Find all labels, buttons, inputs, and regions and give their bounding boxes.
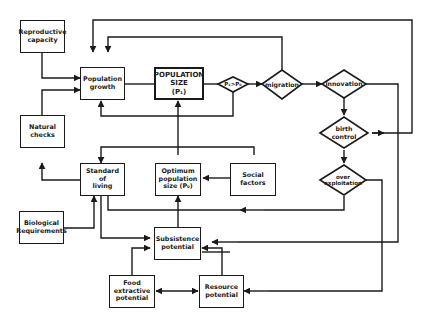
box-subsistence-potential: Subsistence potential: [154, 227, 201, 260]
box-food-extractive-potential: Food extractive potential: [109, 275, 155, 308]
box-natural-checks: Natural checks: [20, 115, 65, 148]
population-flow-diagram: Reproductive capacity Population growth …: [0, 0, 428, 325]
box-standard-of-living: Standard of living: [80, 163, 125, 196]
box-reproductive-capacity: Reproductive capacity: [20, 20, 65, 53]
box-optimum-population-size: Optimum population size (P₀): [155, 163, 201, 196]
box-population-growth: Population growth: [80, 67, 125, 100]
decision-innovation-label: innovation: [322, 70, 366, 98]
decision-migration-label: migration: [262, 70, 302, 99]
decision-birth-control-label: birth control: [320, 117, 368, 148]
box-resource-potential: Resource potential: [199, 275, 244, 308]
decision-p1-gt-p0-label: P₁>P₀: [218, 77, 248, 92]
box-social-factors: Social factors: [230, 163, 276, 196]
box-biological-requirements: Biological Requirements: [19, 211, 64, 244]
decision-over-exploitation-label: over exploitation: [320, 165, 366, 195]
box-population-size: POPULATION SIZE (P₁): [154, 67, 204, 100]
